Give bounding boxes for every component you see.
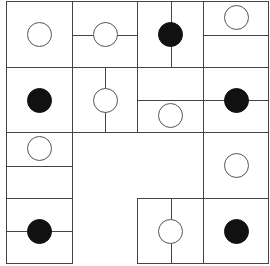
black-pearl-icon [27, 219, 52, 244]
empty-cell [72, 132, 138, 199]
grid-cell[interactable] [72, 67, 138, 133]
grid-cell[interactable] [6, 132, 73, 199]
white-pearl-icon [93, 22, 118, 47]
white-pearl-icon [27, 136, 52, 161]
black-pearl-icon [158, 22, 183, 47]
horizontal-segment [7, 166, 72, 167]
white-pearl-icon [158, 219, 183, 244]
white-pearl-icon [224, 153, 249, 178]
horizontal-segment [138, 100, 203, 101]
puzzle-board [0, 0, 270, 266]
grid-cell[interactable] [137, 1, 204, 68]
white-pearl-icon [224, 5, 249, 30]
empty-cell [137, 132, 204, 199]
white-pearl-icon [93, 88, 118, 113]
white-pearl-icon [158, 103, 183, 128]
black-pearl-icon [27, 88, 52, 113]
grid-cell[interactable] [203, 67, 269, 133]
grid-cell[interactable] [6, 67, 73, 133]
grid-cell[interactable] [203, 1, 269, 68]
grid-cell[interactable] [6, 198, 73, 264]
black-pearl-icon [224, 88, 249, 113]
empty-cell [72, 198, 138, 264]
white-pearl-icon [27, 22, 52, 47]
grid-cell[interactable] [6, 1, 73, 68]
grid-cell[interactable] [137, 67, 204, 133]
black-pearl-icon [224, 219, 249, 244]
grid-cell[interactable] [203, 198, 269, 264]
grid-cell[interactable] [137, 198, 204, 264]
grid-cell[interactable] [72, 1, 138, 68]
grid-cell[interactable] [203, 132, 269, 199]
horizontal-segment [204, 35, 268, 36]
